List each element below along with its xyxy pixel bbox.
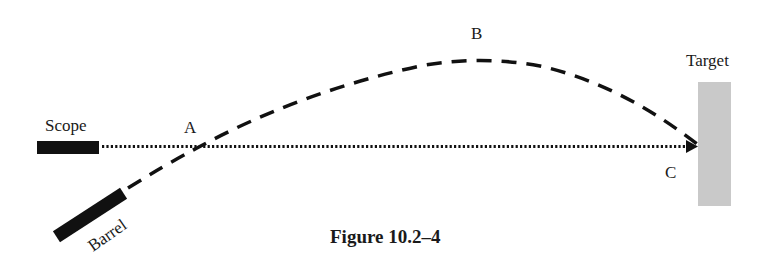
point-a-label: A	[184, 118, 197, 137]
point-c-label: C	[665, 163, 676, 182]
target-rect	[698, 82, 731, 206]
figure-canvas: Scope A B Target C Barrel Figure 10.2–4	[0, 0, 779, 270]
target-label: Target	[686, 51, 729, 70]
scope-label: Scope	[45, 116, 87, 135]
figure-caption: Figure 10.2–4	[330, 226, 441, 247]
scope-bar	[37, 141, 99, 154]
trajectory-path	[128, 61, 697, 189]
diagram-svg: Scope A B Target C Barrel Figure 10.2–4	[0, 0, 779, 270]
point-b-label: B	[471, 24, 482, 43]
